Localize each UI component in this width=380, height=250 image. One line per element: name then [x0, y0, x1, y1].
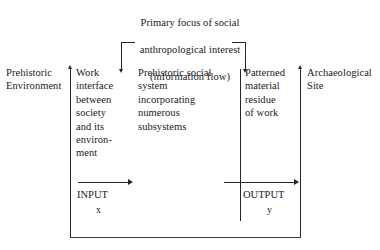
input-label: INPUT [77, 188, 108, 201]
caption-line-1: Primary focus of social [0, 16, 380, 30]
arrow-up-icon [298, 65, 302, 69]
column-material-residue: Patterned material residue of work [245, 66, 297, 120]
caption-line-2: anthropological interest [0, 43, 380, 57]
output-variable: y [267, 203, 272, 216]
input-flow-line [78, 182, 130, 183]
output-flow-line [224, 182, 298, 183]
bracket-stub-right [232, 42, 246, 43]
arrow-up-icon [68, 65, 72, 69]
divider-middle [240, 69, 241, 221]
bracket-stub-left [121, 42, 135, 43]
diagram-figure: Primary focus of social anthropological … [0, 0, 380, 250]
input-variable: x [96, 203, 101, 216]
divider-right [300, 69, 301, 238]
enclosure-bottom-rule [70, 237, 301, 238]
divider-left [70, 69, 71, 238]
arrow-right-icon [128, 179, 133, 185]
output-label: OUTPUT [243, 188, 284, 201]
column-work-interface: Work interface between society and its e… [76, 66, 132, 160]
arrow-right-icon [294, 179, 299, 185]
column-archaeological-site: Archaeological Site [307, 66, 379, 93]
column-social-system: Prehistoric social system incorporating … [138, 66, 238, 133]
column-prehistoric-environment: Prehistoric Environment [6, 66, 64, 93]
